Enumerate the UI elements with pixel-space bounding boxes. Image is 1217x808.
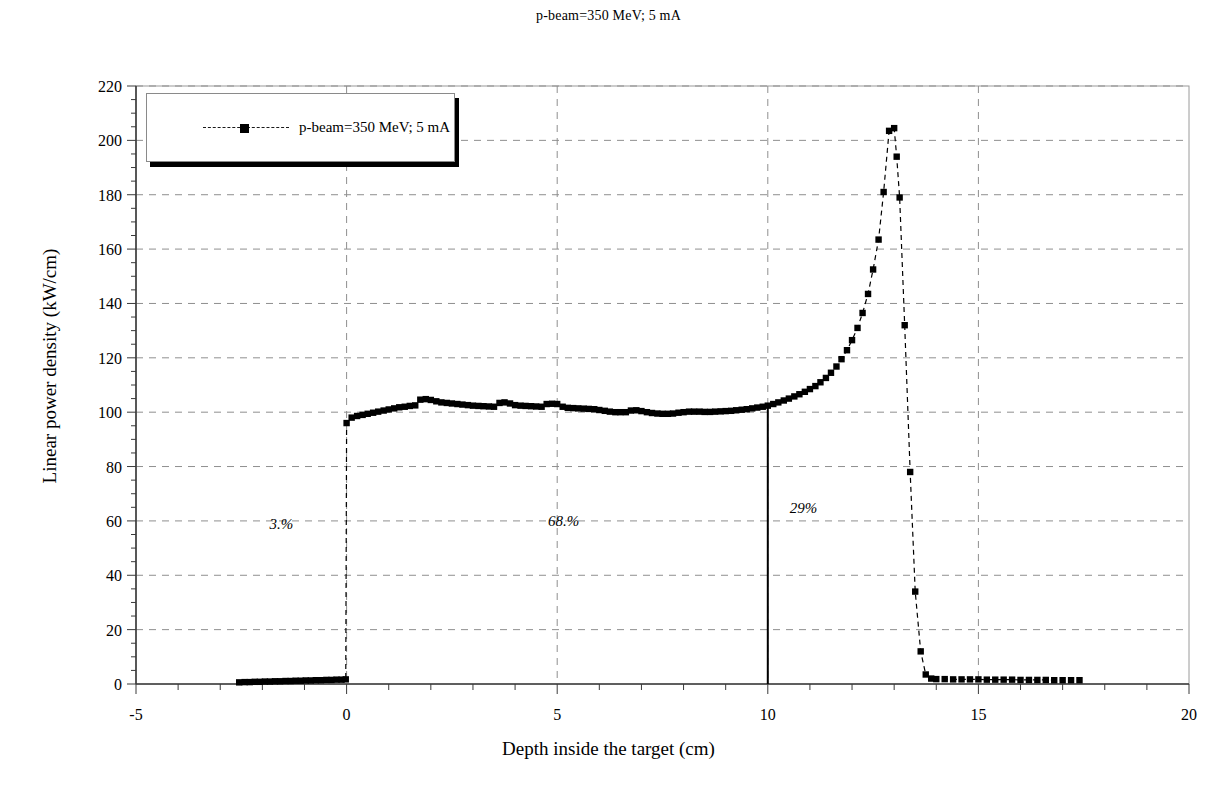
y-tick-label: 60	[106, 513, 122, 530]
data-point-marker	[543, 401, 549, 407]
data-point-marker	[412, 402, 418, 408]
y-tick-label: 100	[98, 404, 122, 421]
data-point-marker	[722, 408, 728, 414]
data-point-marker	[428, 397, 434, 403]
data-point-marker	[854, 325, 860, 331]
data-point-marker	[533, 403, 539, 409]
data-point-marker	[917, 648, 923, 654]
data-point-marker	[950, 676, 956, 682]
data-point-marker	[1043, 677, 1049, 683]
data-point-marker	[480, 403, 486, 409]
data-point-marker	[891, 125, 897, 131]
data-point-marker	[907, 469, 913, 475]
data-point-marker	[375, 408, 381, 414]
data-point-marker	[975, 676, 981, 682]
data-point-marker	[318, 677, 324, 683]
data-point-marker	[880, 189, 886, 195]
data-point-marker	[596, 407, 602, 413]
data-point-marker	[817, 379, 823, 385]
legend: p-beam=350 MeV; 5 mA	[146, 93, 455, 162]
data-point-marker	[870, 266, 876, 272]
x-tick-label: 0	[343, 706, 351, 723]
data-point-marker	[765, 402, 771, 408]
y-tick-label: 200	[98, 132, 122, 149]
data-point-marker	[512, 402, 518, 408]
data-point-marker	[575, 405, 581, 411]
y-tick-label: 160	[98, 241, 122, 258]
y-tick-label: 120	[98, 350, 122, 367]
annotation-label: 68.%	[548, 513, 579, 529]
x-tick-label: 10	[760, 706, 776, 723]
data-point-marker	[923, 671, 929, 677]
x-tick-label: -5	[129, 706, 142, 723]
data-point-marker	[984, 676, 990, 682]
data-point-marker	[554, 401, 560, 407]
data-point-marker	[896, 194, 902, 200]
data-point-marker	[343, 676, 349, 682]
data-point-marker	[277, 678, 283, 684]
data-point-marker	[1059, 677, 1065, 683]
data-point-marker	[236, 679, 242, 685]
data-point-marker	[992, 676, 998, 682]
data-point-marker	[670, 410, 676, 416]
plot-frame	[136, 86, 1189, 684]
data-point-marker	[1009, 676, 1015, 682]
data-point-marker	[1034, 677, 1040, 683]
data-point-marker	[901, 322, 907, 328]
data-point-marker	[617, 409, 623, 415]
data-point-marker	[893, 153, 899, 159]
y-tick-label: 220	[98, 78, 122, 95]
data-point-marker	[1051, 677, 1057, 683]
data-point-marker	[796, 391, 802, 397]
data-point-marker	[967, 676, 973, 682]
data-point-marker	[638, 408, 644, 414]
data-point-marker	[807, 386, 813, 392]
data-point-marker	[522, 403, 528, 409]
data-point-marker	[833, 363, 839, 369]
data-point-marker	[859, 310, 865, 316]
data-point-marker	[417, 396, 423, 402]
y-tick-label: 0	[114, 676, 122, 693]
x-tick-label: 15	[970, 706, 986, 723]
data-point-marker	[354, 413, 360, 419]
data-point-marker	[680, 409, 686, 415]
data-point-marker	[691, 408, 697, 414]
x-tick-label: 20	[1181, 706, 1197, 723]
data-point-marker	[628, 407, 634, 413]
data-point-marker	[1017, 677, 1023, 683]
y-tick-label: 20	[106, 622, 122, 639]
data-point-marker	[828, 370, 834, 376]
data-point-marker	[1076, 677, 1082, 683]
data-point-marker	[1000, 676, 1006, 682]
data-point-marker	[775, 399, 781, 405]
data-point-marker	[501, 399, 507, 405]
data-point-marker	[396, 404, 402, 410]
data-point-marker	[470, 402, 476, 408]
chart-canvas: p-beam=350 MeV; 5 mA Linear power densit…	[0, 0, 1217, 808]
data-point-marker	[386, 406, 392, 412]
x-tick-label: 5	[553, 706, 561, 723]
data-point-marker	[958, 676, 964, 682]
data-point-marker	[438, 399, 444, 405]
data-point-marker	[912, 588, 918, 594]
data-point-marker	[875, 236, 881, 242]
legend-marker-sample	[203, 121, 289, 135]
data-point-marker	[586, 406, 592, 412]
y-tick-label: 40	[106, 567, 122, 584]
data-point-marker	[844, 347, 850, 353]
data-point-marker	[364, 411, 370, 417]
data-point-marker	[754, 404, 760, 410]
data-point-marker	[933, 676, 939, 682]
data-point-marker	[407, 403, 413, 409]
data-point-marker	[1026, 677, 1032, 683]
data-point-marker	[849, 337, 855, 343]
data-point-marker	[607, 408, 613, 414]
data-point-marker	[838, 356, 844, 362]
data-point-marker	[649, 410, 655, 416]
data-point-marker	[733, 407, 739, 413]
data-point-marker	[459, 401, 465, 407]
annotation-label: 3.%	[268, 516, 293, 532]
annotation-label: 29%	[790, 500, 818, 516]
legend-label: p-beam=350 MeV; 5 mA	[299, 119, 450, 136]
data-point-marker	[449, 400, 455, 406]
